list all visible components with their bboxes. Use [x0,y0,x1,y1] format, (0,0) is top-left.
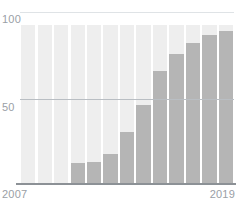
bar-slot[interactable] [202,11,216,185]
bar-slot[interactable] [21,11,35,185]
bar-value [153,71,167,185]
x-axis-line [16,183,236,185]
bar-slot[interactable] [87,11,101,185]
bar-value [71,163,85,185]
bar-background [71,25,85,185]
bar-value [136,105,150,186]
bar-value [186,43,200,186]
gridline-100 [20,12,234,13]
bar-slot[interactable] [71,11,85,185]
x-tick-label-2019: 2019 [210,188,235,200]
bar-slot[interactable] [54,11,68,185]
plot-area [20,11,234,185]
bar-slot[interactable] [103,11,117,185]
bar-slot[interactable] [153,11,167,185]
bar-background [21,25,35,185]
bar-group [20,11,234,185]
bar-value [120,132,134,185]
bar-slot[interactable] [186,11,200,185]
bar-chart: 100 50 2007 2019 [0,0,238,201]
bar-value [219,31,233,185]
bar-slot[interactable] [120,11,134,185]
y-tick-label-100: 100 [2,13,21,25]
bar-slot[interactable] [169,11,183,185]
bar-value [202,35,216,185]
bar-background [38,25,52,185]
bar-value [87,162,101,185]
y-tick-label-50: 50 [2,101,15,113]
bar-value [169,54,183,185]
bar-value [103,154,117,185]
bar-slot[interactable] [38,11,52,185]
gridline-50 [20,99,234,100]
x-tick-label-2007: 2007 [2,188,27,200]
bar-slot[interactable] [219,11,233,185]
bar-background [54,25,68,185]
bar-slot[interactable] [136,11,150,185]
